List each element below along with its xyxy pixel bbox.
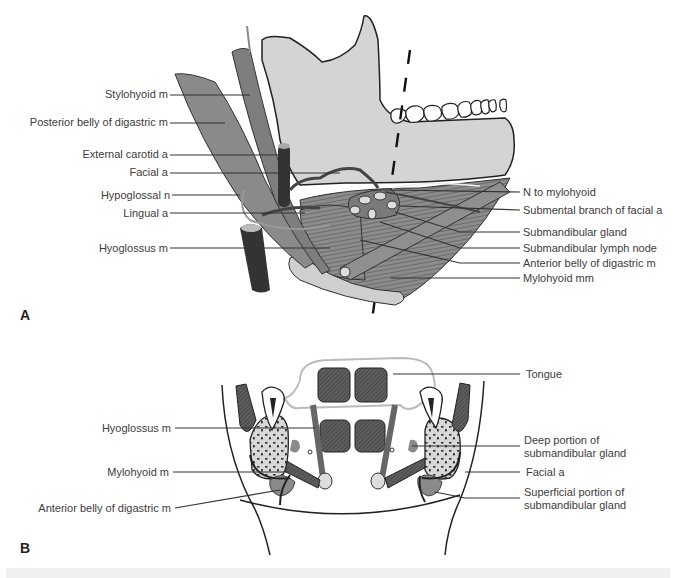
carotid-vessel [240, 224, 270, 293]
chin-skin [240, 495, 460, 514]
anatomy-figure: A B Stylohyoid m Posterior belly of diga… [0, 0, 676, 578]
cheek-left [236, 384, 256, 431]
label-n-to-mylohyoid: N to mylohyoid [523, 186, 596, 199]
label-deep-portion-line1: Deep portion of [524, 434, 599, 447]
label-external-carotid-a: External carotid a [82, 148, 168, 161]
label-hypoglossal-n: Hypoglossal n [101, 189, 170, 202]
tongue-muscle-block [355, 368, 387, 402]
label-submandibular-lymph-node: Submandibular lymph node [523, 242, 657, 255]
tongue-muscle-block [355, 420, 385, 452]
external-carotid-artery [278, 145, 290, 207]
label-stylohyoid-m: Stylohyoid m [105, 88, 168, 101]
label-submandibular-gland: Submandibular gland [523, 226, 627, 239]
label-anterior-belly-digastric-m-b: Anterior belly of digastric m [38, 502, 171, 515]
label-deep-portion-line2: submandibular gland [524, 447, 626, 460]
bottom-margin-band [6, 568, 670, 578]
label-facial-a-b: Facial a [526, 466, 565, 479]
label-hyoglossus-m-b: Hyoglossus m [102, 422, 171, 435]
label-mylohyoid-m-b: Mylohyoid m [107, 466, 169, 479]
label-posterior-belly-digastric-m: Posterior belly of digastric m [30, 116, 168, 129]
label-anterior-belly-digastric-m: Anterior belly of digastric m [523, 257, 656, 270]
label-submental-branch-facial-a: Submental branch of facial a [523, 204, 662, 217]
label-superficial-portion-line1: Superficial portion of [524, 486, 624, 499]
panel-b-drawing [222, 358, 484, 555]
label-lingual-a: Lingual a [123, 207, 168, 220]
panel-a-drawing [175, 16, 514, 320]
deep-gland-left [290, 440, 300, 453]
panel-label-a: A [20, 307, 30, 323]
label-facial-a: Facial a [129, 166, 168, 179]
cheek-right [452, 383, 470, 431]
label-mylohyoid-mm: Mylohyoid mm [523, 272, 594, 285]
tongue-muscle-block [318, 368, 350, 402]
label-hyoglossus-m: Hyoglossus m [99, 242, 168, 255]
panel-label-b: B [20, 540, 30, 556]
label-superficial-portion-line2: submandibular gland [524, 499, 626, 512]
label-tongue: Tongue [526, 368, 562, 381]
tongue-muscle-block [320, 420, 350, 452]
styloid-process [247, 26, 250, 52]
